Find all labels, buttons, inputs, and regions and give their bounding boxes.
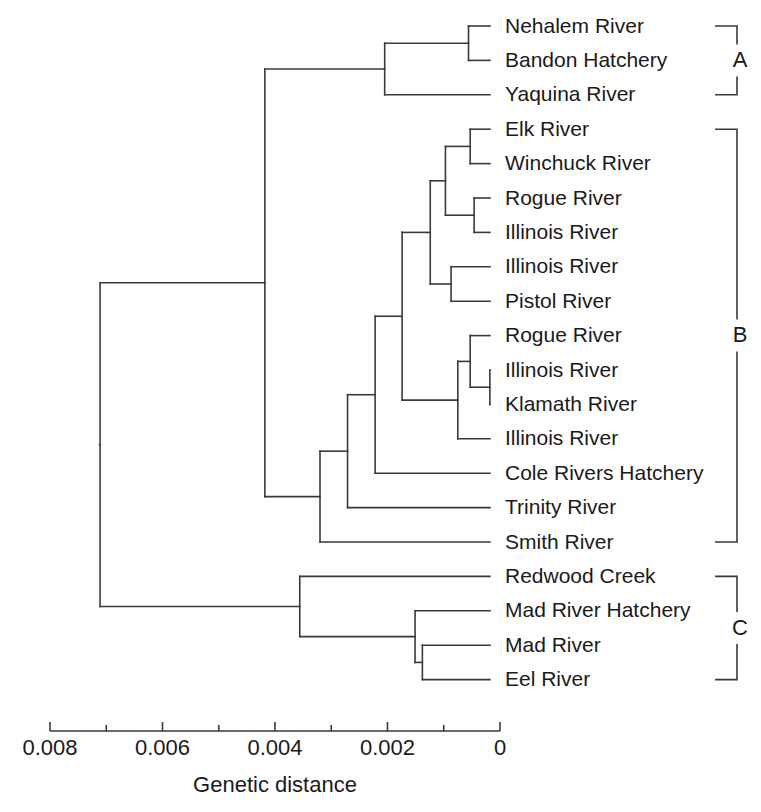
tip-label-t5: Winchuck River: [505, 151, 651, 174]
tip-label-t14: Cole Rivers Hatchery: [505, 461, 704, 484]
axis-tick-label-1: 0.006: [135, 735, 190, 760]
tip-label-t8: Illinois River: [505, 254, 618, 277]
tip-label-t7: Illinois River: [505, 220, 618, 243]
group-brackets: ABC: [715, 26, 748, 680]
tip-label-t17: Redwood Creek: [505, 564, 656, 587]
tip-label-t19: Mad River: [505, 633, 601, 656]
group-letter-a: A: [733, 47, 748, 72]
tip-labels: Nehalem RiverBandon HatcheryYaquina Rive…: [505, 14, 704, 691]
axis-tick-label-4: 0: [494, 735, 506, 760]
tip-label-t13: Illinois River: [505, 426, 618, 449]
axis-title: Genetic distance: [193, 772, 357, 797]
group-letter-b: B: [733, 322, 748, 347]
tip-label-t4: Elk River: [505, 117, 589, 140]
axis-tick-label-3: 0.002: [360, 735, 415, 760]
tip-label-t18: Mad River Hatchery: [505, 598, 691, 621]
tip-label-t6: Rogue River: [505, 186, 622, 209]
tip-label-t15: Trinity River: [505, 495, 616, 518]
tip-label-t1: Nehalem River: [505, 14, 644, 37]
tip-label-t11: Illinois River: [505, 358, 618, 381]
axis-tick-label-2: 0.004: [247, 735, 302, 760]
tip-label-t20: Eel River: [505, 667, 590, 690]
tree-branches: [100, 26, 490, 680]
tip-label-t10: Rogue River: [505, 323, 622, 346]
genetic-distance-dendrogram: Nehalem RiverBandon HatcheryYaquina Rive…: [0, 0, 761, 812]
group-letter-c: C: [732, 615, 748, 640]
tip-label-t3: Yaquina River: [505, 82, 635, 105]
tip-label-t16: Smith River: [505, 530, 614, 553]
genetic-distance-axis: 0.0080.0060.0040.0020Genetic distance: [22, 722, 506, 797]
tip-label-t12: Klamath River: [505, 392, 637, 415]
dendrogram-figure: Nehalem RiverBandon HatcheryYaquina Rive…: [0, 0, 761, 812]
tip-label-t2: Bandon Hatchery: [505, 48, 668, 71]
tip-label-t9: Pistol River: [505, 289, 611, 312]
axis-tick-label-0: 0.008: [22, 735, 77, 760]
